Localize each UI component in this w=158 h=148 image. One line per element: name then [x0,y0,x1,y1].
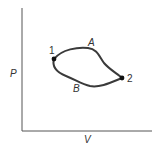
x-axis-label: V [84,134,92,145]
pv-diagram: 1 2 A B P V [0,0,158,148]
state-1-point [52,57,57,62]
path-a-curve [54,48,122,78]
state-1-label: 1 [49,45,55,56]
path-a-label: A [87,37,95,48]
state-2-point [120,76,125,81]
path-b-label: B [73,83,80,94]
path-b-curve [54,59,123,86]
y-axis-label: P [10,68,17,79]
state-2-label: 2 [127,73,133,84]
